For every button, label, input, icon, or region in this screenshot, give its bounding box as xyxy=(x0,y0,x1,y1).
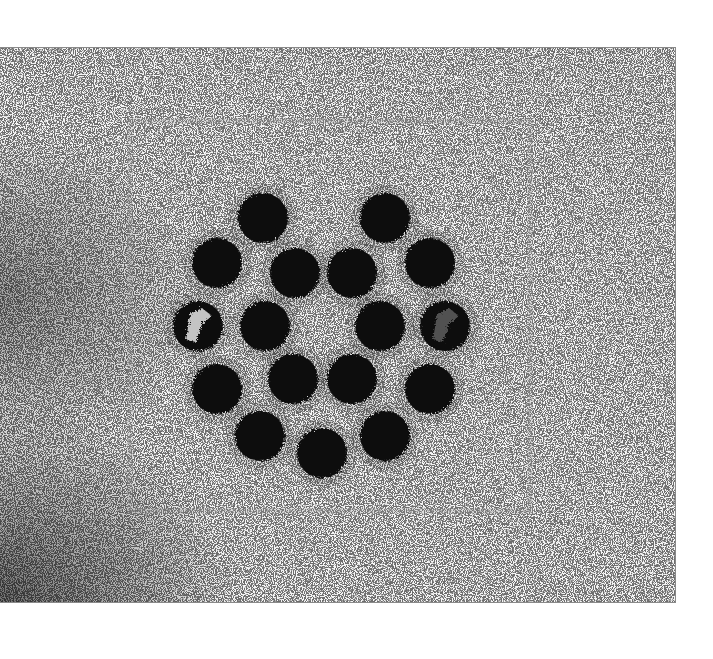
outer-ring-dot xyxy=(192,238,242,288)
outer-ring-dot xyxy=(297,428,347,478)
inner-ring-dot xyxy=(327,354,377,404)
inner-ring-dot xyxy=(355,301,405,351)
outer-ring-dot xyxy=(405,364,455,414)
inner-ring-dot xyxy=(240,301,290,351)
inner-ring-dot xyxy=(268,354,318,404)
outer-ring-dot xyxy=(238,193,288,243)
micrograph-image xyxy=(0,48,676,603)
outer-ring-dot xyxy=(360,193,410,243)
micrograph-frame xyxy=(0,47,676,603)
outer-ring-dot xyxy=(405,238,455,288)
outer-ring-dot xyxy=(360,411,410,461)
inner-ring-dot xyxy=(270,248,320,298)
outer-ring-dot xyxy=(235,411,285,461)
outer-ring-dot xyxy=(192,364,242,414)
inner-ring-dot xyxy=(327,248,377,298)
dark-left-shading xyxy=(0,48,676,603)
